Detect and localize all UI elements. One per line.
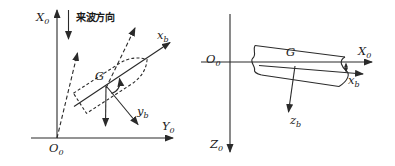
left-y0-axis-label: Y0 [162, 119, 175, 135]
right-origin-label: O0 [206, 52, 221, 68]
pitch-offset-up-arrowhead [344, 63, 348, 68]
wave-direction-label: 来波方向 [75, 11, 115, 23]
pitch-offset-dimension-arrow [344, 63, 348, 73]
right-xb-axis-label: xb [348, 73, 360, 89]
diagram-canvas: X0 来波方向 xb G yb Y0 O0 O0 X0 xb G zb Z0 [0, 0, 395, 166]
right-z0-axis-label: Z0 [209, 137, 223, 153]
left-xb-axis-label: xb [157, 28, 169, 44]
hull-top-edge [255, 46, 345, 58]
left-origin-label: O0 [49, 141, 64, 157]
right-x0-axis-label: X0 [357, 44, 371, 60]
left-yb-axis-line [107, 87, 138, 125]
left-center-of-gravity-label: G [95, 69, 104, 83]
left-down-reference-arrow [106, 86, 107, 126]
right-diagram-group [201, 14, 372, 152]
wave-direction-dashed-line-ship [106, 28, 135, 88]
right-zb-axis-label: zb [289, 113, 301, 129]
left-xb-axis-line [74, 43, 170, 107]
hull-left-break-line [252, 46, 262, 76]
right-center-of-gravity-label: G [286, 45, 295, 59]
left-x0-axis-label: X0 [35, 10, 49, 26]
figure-ship-coordinate-systems: X0 来波方向 xb G yb Y0 O0 O0 X0 xb G zb Z0 [0, 0, 395, 166]
hull-bottom-edge [262, 75, 340, 87]
left-yb-axis-label: yb [136, 104, 149, 120]
right-zb-axis-line [289, 66, 296, 112]
